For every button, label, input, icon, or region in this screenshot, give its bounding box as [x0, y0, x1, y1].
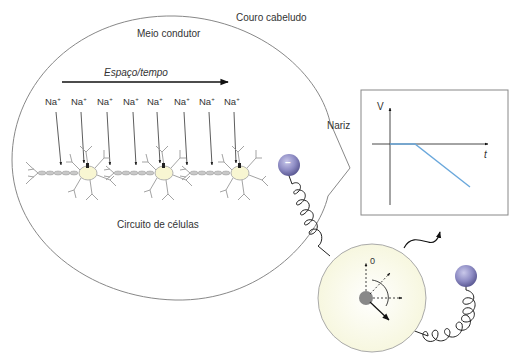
neuron-chain: [26, 146, 268, 200]
ion-arrows: [56, 112, 236, 165]
ion-label: Na+: [45, 96, 61, 107]
cell-circuit-label: Circuito de células: [117, 219, 199, 230]
ion-label: Na+: [224, 96, 240, 107]
ion-label: Na+: [71, 96, 87, 107]
ion-label: Na+: [97, 96, 113, 107]
graph-y-label: V: [377, 101, 384, 112]
conductive-medium-label: Meio condutor: [137, 28, 200, 39]
ion-label: Na+: [123, 96, 139, 107]
motion-arrow: [404, 232, 440, 248]
graph-x-label: t: [484, 149, 487, 160]
diagram-canvas: [0, 0, 517, 362]
positive-electrode: [455, 265, 477, 287]
spring-left: [288, 173, 330, 256]
head-axis-zero-label: 0: [370, 256, 375, 266]
ion-label: Na+: [147, 96, 163, 107]
negative-sign: –: [285, 157, 291, 168]
nose-label: Nariz: [327, 120, 350, 131]
scalp-label: Couro cabeludo: [236, 12, 307, 23]
ion-label: Na+: [199, 96, 215, 107]
space-time-label: Espaço/tempo: [104, 67, 168, 78]
ion-label: Na+: [174, 96, 190, 107]
